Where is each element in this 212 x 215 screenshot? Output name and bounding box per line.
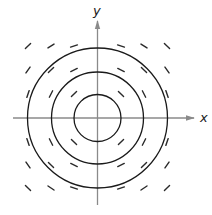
field-vector-segment xyxy=(141,186,147,190)
field-vector-segment xyxy=(49,91,52,97)
x-axis-label: x xyxy=(199,110,208,125)
field-vector-segment xyxy=(71,187,78,189)
field-vector-segment xyxy=(141,162,146,167)
field-vector-segment xyxy=(48,186,54,190)
field-vector-segment xyxy=(142,139,145,145)
vector-field-diagram: x y xyxy=(0,0,212,215)
field-vector-segment xyxy=(48,44,54,48)
field-vector-segment xyxy=(71,163,77,166)
field-vector-segment xyxy=(25,185,30,190)
field-vector-segment xyxy=(142,91,145,97)
field-vector-segment xyxy=(71,68,77,71)
field-vector-segment xyxy=(166,91,168,98)
field-vector-segment xyxy=(165,162,169,168)
field-vector-segment xyxy=(25,44,30,49)
field-vector-segment xyxy=(118,163,124,166)
field-vector-segment xyxy=(165,67,169,73)
field-vector-segment xyxy=(27,139,29,146)
field-vector-segment xyxy=(27,91,29,98)
field-vector-segment xyxy=(118,187,125,189)
field-vector-segment xyxy=(164,185,169,190)
field-vector-segment xyxy=(48,162,53,167)
field-vector-segment xyxy=(141,68,146,73)
field-vector-segment xyxy=(71,139,76,144)
field-vector-segment xyxy=(118,91,123,96)
field-vector-segment xyxy=(166,139,168,146)
field-vector-segment xyxy=(118,45,125,47)
field-vector-segment xyxy=(141,44,147,48)
field-vector-segment xyxy=(118,139,123,144)
field-vector-segment xyxy=(48,68,53,73)
field-vector-segment xyxy=(71,45,78,47)
field-vector-segment xyxy=(49,139,52,145)
field-vector-segment xyxy=(26,67,30,73)
field-vector-segment xyxy=(71,91,76,96)
field-vector-segment xyxy=(164,44,169,49)
field-vector-segment xyxy=(26,162,30,168)
y-axis-label: y xyxy=(92,3,101,18)
field-vector-segment xyxy=(118,68,124,71)
